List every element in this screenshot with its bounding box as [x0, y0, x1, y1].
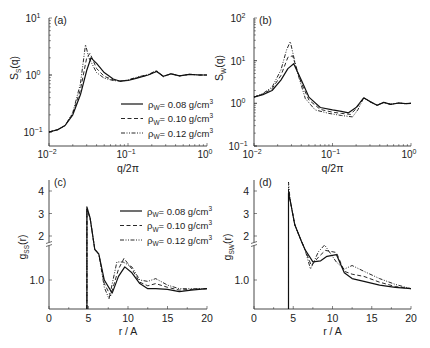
y-axis-label: SW(q)	[213, 55, 227, 81]
x-tick-label: 5	[86, 312, 92, 324]
y-tick-label: 2	[38, 230, 44, 242]
panel-tag: (c)	[54, 176, 66, 188]
x-tick-label: 10−1	[116, 148, 135, 160]
x-axis-label: r / A	[323, 325, 342, 337]
x-tick-label: 15	[366, 312, 378, 324]
x-tick-label: 0	[251, 312, 257, 324]
panel-c-rdf-ss: 051015201.0234(c)gSS(r)r / AρW= 0.08 g/c…	[16, 176, 213, 337]
y-tick-label: 102	[230, 12, 245, 24]
figure: 10−210−110010−1100101(a)SS(q)q/2πρW= 0.0…	[0, 0, 430, 348]
panel-tag: (a)	[54, 14, 67, 26]
x-tick-label: 10−2	[242, 148, 261, 160]
legend-label: ρW= 0.08 g/cm3	[148, 98, 213, 112]
x-tick-label: 10−1	[321, 148, 340, 160]
legend-label: ρW= 0.10 g/cm3	[147, 219, 212, 233]
y-tick-label: 1.0	[29, 274, 44, 286]
x-tick-label: 20	[405, 312, 417, 324]
legend-label: ρW= 0.12 g/cm3	[147, 234, 212, 248]
x-tick-label: 20	[201, 312, 213, 324]
x-axis-label: q/2π	[322, 162, 344, 174]
y-tick-label: 4	[38, 185, 44, 197]
series-line-dashdotdot	[289, 182, 412, 309]
panel-a-structure-factor-s: 10−210−110010−1100101(a)SS(q)q/2πρW= 0.0…	[8, 12, 213, 174]
x-tick-label: 100	[401, 148, 416, 160]
series-line-dashed	[289, 189, 412, 309]
series-line-dashed	[254, 56, 411, 115]
y-tick-label: 1.0	[234, 274, 249, 286]
y-tick-label: 3	[38, 208, 44, 220]
x-tick-label: 10	[327, 312, 339, 324]
x-tick-label: 100	[197, 148, 212, 160]
y-tick-label: 3	[243, 208, 249, 220]
y-axis-label: gSW(r)	[221, 234, 235, 261]
panel-tag: (d)	[259, 176, 272, 188]
y-axis-label: SS(q)	[8, 56, 22, 80]
legend-label: ρW= 0.08 g/cm3	[147, 205, 212, 219]
x-axis-label: q/2π	[117, 162, 139, 174]
x-tick-label: 0	[46, 312, 52, 324]
legend-label: ρW= 0.10 g/cm3	[148, 112, 213, 126]
panel-tag: (b)	[259, 14, 272, 26]
x-tick-label: 15	[162, 312, 174, 324]
y-tick-label: 100	[230, 97, 245, 109]
legend-label: ρW= 0.12 g/cm3	[148, 127, 213, 141]
y-tick-label: 10−1	[23, 126, 42, 138]
y-tick-label: 100	[25, 69, 40, 81]
x-tick-label: 5	[290, 312, 296, 324]
x-axis-label: r / A	[119, 325, 138, 337]
series-line-solid	[289, 193, 412, 309]
legend: ρW= 0.08 g/cm3ρW= 0.10 g/cm3ρW= 0.12 g/c…	[120, 205, 212, 248]
y-tick-label: 101	[230, 55, 245, 67]
legend: ρW= 0.08 g/cm3ρW= 0.10 g/cm3ρW= 0.12 g/c…	[121, 98, 213, 141]
y-tick-label: 2	[243, 230, 249, 242]
panel-b-structure-factor-w: 10−210−110010−1100101102(b)SW(q)q/2π	[213, 12, 417, 174]
panel-d-rdf-sw: 051015201.0234(d)gSW(r)r / A	[221, 176, 417, 337]
y-axis-label: gSS(r)	[16, 234, 30, 259]
x-tick-label: 10	[122, 312, 134, 324]
series-line-dashdotdot	[254, 42, 411, 117]
y-tick-label: 4	[243, 185, 249, 197]
y-tick-label: 101	[25, 12, 40, 24]
x-tick-label: 10−2	[37, 148, 56, 160]
series-line-solid	[254, 64, 411, 113]
